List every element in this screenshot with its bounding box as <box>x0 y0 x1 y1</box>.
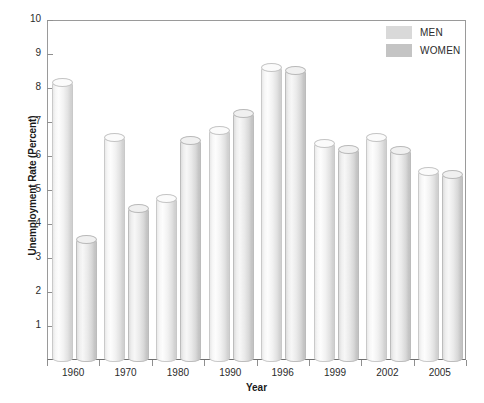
x-tick-label: 2005 <box>410 367 470 378</box>
bar-1990-women <box>233 112 254 362</box>
bar-1980-men <box>156 197 177 362</box>
bar-1970-women <box>128 207 149 362</box>
bar-1990-men <box>209 129 230 362</box>
bar-top-ellipse <box>366 133 387 142</box>
x-tick-mark <box>204 360 205 366</box>
legend-swatch-men <box>386 26 412 39</box>
bar-1970-men <box>104 136 125 362</box>
x-tick-label: 1970 <box>96 367 156 378</box>
y-tick-label: 7 <box>17 115 41 126</box>
x-tick-mark <box>414 360 415 366</box>
y-tick-label: 9 <box>17 47 41 58</box>
y-tick-label: 10 <box>17 13 41 24</box>
x-tick-label: 1990 <box>200 367 260 378</box>
x-tick-label: 2002 <box>357 367 417 378</box>
legend-label-men: MEN <box>420 27 443 38</box>
y-tick-label: 1 <box>17 319 41 330</box>
bar-top-ellipse <box>209 126 230 135</box>
bar-top-ellipse <box>285 66 306 75</box>
bar-top-ellipse <box>418 167 439 176</box>
bar-top-ellipse <box>338 145 359 154</box>
x-tick-mark <box>47 360 48 366</box>
bar-top-ellipse <box>442 170 463 179</box>
x-tick-label: 1980 <box>148 367 208 378</box>
y-tick-label: 8 <box>17 81 41 92</box>
legend-swatch-women <box>386 44 412 57</box>
x-tick-mark <box>257 360 258 366</box>
chart-legend: MENWOMEN <box>386 26 460 57</box>
y-tick-label: 2 <box>17 285 41 296</box>
y-tick-label: 3 <box>17 251 41 262</box>
legend-item-women[interactable]: WOMEN <box>386 44 460 57</box>
y-tick-label: 6 <box>17 149 41 160</box>
unemployment-bar-chart: Unemployment Rate (Percent) 12345678910 … <box>0 0 484 403</box>
bar-top-ellipse <box>261 63 282 72</box>
x-tick-label: 1999 <box>305 367 365 378</box>
bar-1960-men <box>52 81 73 362</box>
bar-2002-men <box>366 136 387 362</box>
x-tick-mark <box>309 360 310 366</box>
bar-2005-women <box>442 173 463 362</box>
y-tick-label: 5 <box>17 183 41 194</box>
legend-label-women: WOMEN <box>420 45 460 56</box>
x-axis-title: Year <box>47 382 466 393</box>
bar-top-ellipse <box>314 139 335 148</box>
bar-top-ellipse <box>128 204 149 213</box>
x-tick-mark <box>466 360 467 366</box>
x-tick-label: 1960 <box>43 367 103 378</box>
bar-1999-women <box>338 148 359 363</box>
x-tick-mark <box>99 360 100 366</box>
bar-1996-men <box>261 66 282 362</box>
x-tick-mark <box>152 360 153 366</box>
legend-item-men[interactable]: MEN <box>386 26 460 39</box>
x-tick-mark <box>361 360 362 366</box>
y-tick-mark <box>47 54 53 55</box>
y-tick-mark <box>47 20 53 21</box>
bar-top-ellipse <box>104 133 125 142</box>
bar-1996-women <box>285 69 306 362</box>
bar-top-ellipse <box>180 136 201 145</box>
bar-top-ellipse <box>52 78 73 87</box>
bar-1980-women <box>180 139 201 362</box>
bar-1999-men <box>314 142 335 362</box>
bar-1960-women <box>76 238 97 362</box>
bar-top-ellipse <box>233 109 254 118</box>
bar-2005-men <box>418 170 439 362</box>
bar-2002-women <box>390 149 411 362</box>
x-tick-label: 1996 <box>253 367 313 378</box>
y-tick-label: 4 <box>17 217 41 228</box>
bar-top-ellipse <box>390 146 411 155</box>
bar-top-ellipse <box>76 235 97 244</box>
bar-top-ellipse <box>156 194 177 203</box>
